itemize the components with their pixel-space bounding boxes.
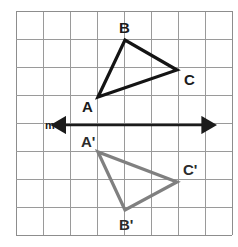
vertex-label-a: A xyxy=(82,98,93,115)
vertex-label-c-prime: C' xyxy=(183,161,197,178)
geometry-canvas: m A B C A' B' C' xyxy=(0,0,238,247)
vertex-label-b-prime: B' xyxy=(119,216,133,233)
vertex-label-c: C xyxy=(184,71,195,88)
triangle-abc-prime-outline xyxy=(98,152,177,210)
line-m-label: m xyxy=(45,119,55,131)
geometry-figure: m A B C A' B' C' xyxy=(0,0,238,247)
vertex-label-b: B xyxy=(119,19,130,36)
triangle-abc-prime: A' B' C' xyxy=(81,133,197,233)
triangle-abc-outline xyxy=(98,40,177,97)
vertex-label-a-prime: A' xyxy=(81,133,95,150)
